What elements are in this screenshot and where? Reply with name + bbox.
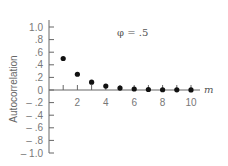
y-tick-label: 1.0 — [29, 22, 43, 33]
data-point — [174, 87, 179, 92]
y-tick-label: – .4 — [26, 110, 43, 121]
autocorrelation-chart: 1.0.8.6.4.20– .2– .4– .6– .8– 1.0 246810… — [0, 0, 228, 166]
data-point — [103, 83, 108, 88]
y-tick-label: – .2 — [26, 97, 43, 108]
data-point — [61, 56, 66, 61]
y-axis: 1.0.8.6.4.20– .2– .4– .6– .8– 1.0 — [21, 20, 54, 159]
x-axis-label: m — [204, 84, 213, 95]
y-tick-label: .6 — [35, 47, 44, 58]
data-point — [160, 87, 165, 92]
data-point — [89, 80, 94, 85]
y-tick-label: – .8 — [26, 135, 43, 146]
y-tick-label: – .6 — [26, 122, 43, 133]
phi-annotation: φ = .5 — [117, 27, 148, 38]
data-point — [146, 87, 151, 92]
y-tick-label: – 1.0 — [21, 148, 44, 159]
x-tick-label: 10 — [185, 97, 197, 108]
data-points — [61, 56, 194, 93]
data-point — [117, 85, 122, 90]
y-tick-label: .4 — [35, 59, 44, 70]
x-tick-label: 2 — [75, 97, 81, 108]
y-axis-label: Autocorrelation — [8, 55, 19, 122]
x-tick-label: 4 — [103, 97, 109, 108]
y-tick-label: .2 — [35, 72, 44, 83]
x-tick-label: 6 — [131, 97, 137, 108]
data-point — [75, 72, 80, 77]
y-tick-label: 0 — [37, 85, 43, 96]
data-point — [132, 86, 137, 91]
x-tick-label: 8 — [160, 97, 166, 108]
y-tick-label: .8 — [35, 34, 44, 45]
data-point — [188, 87, 193, 92]
